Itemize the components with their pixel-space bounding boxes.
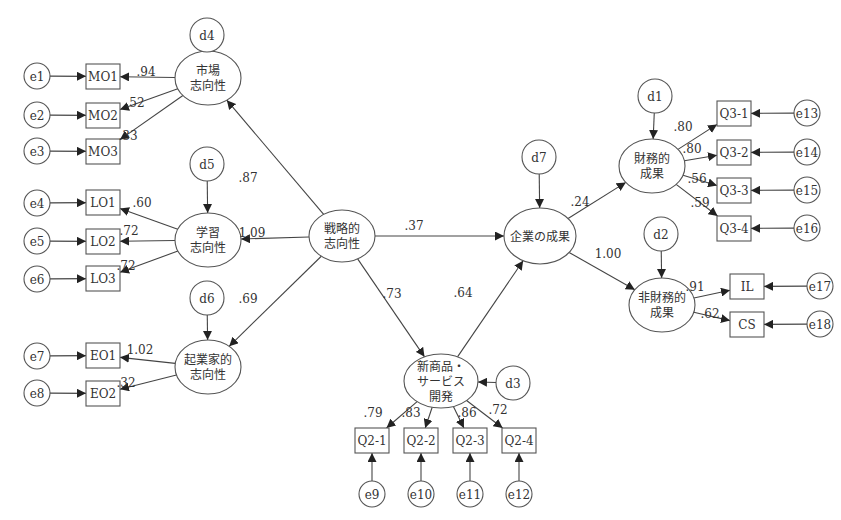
latent-label: 志向性 [190,240,226,255]
latent-label: 志向性 [190,78,226,93]
error-label: e7 [30,350,45,364]
error-label: e1 [30,70,45,84]
latent-variable-mo: 市場志向性 [175,51,241,105]
latent-label: 戦略的 [324,221,360,236]
latent-variable-perf: 企業の成果 [504,208,576,264]
path-arrow-npd-perf [457,261,523,357]
error-label: e3 [30,145,45,159]
error-label: e15 [796,184,818,198]
indicator-q3-1: Q3-1 [717,101,751,126]
error-term-e16: e16 [794,215,820,241]
indicator-label: Q3-3 [719,184,748,198]
latent-variable-so: 戦略的志向性 [309,210,375,262]
latent-label: 志向性 [190,367,226,382]
indicator-mo3: MO3 [86,139,120,164]
latent-ellipse [175,51,241,105]
error-term-e4: e4 [24,190,50,216]
latent-variable-lo: 学習志向性 [175,213,241,267]
error-term-e17: e17 [807,273,833,299]
indicator-lo2: LO2 [86,229,120,254]
indicator-q2-3: Q2-3 [453,428,487,453]
disturbance-d7: d7 [522,140,556,174]
error-label: e17 [809,280,831,294]
loading-coefficient: .79 [363,406,382,420]
path-arrow-so-mo [227,100,324,214]
indicator-label: LO1 [90,196,115,210]
latent-variable-eo: 起業家的志向性 [175,340,241,394]
latent-ellipse [175,340,241,394]
path-coefficient: .73 [382,287,401,301]
loading-coefficient: .56 [687,172,706,186]
disturbance-label: d3 [505,377,520,391]
error-term-e15: e15 [794,177,820,203]
latent-label: サービス [417,375,465,389]
indicator-label: MO1 [88,70,118,84]
error-term-e2: e2 [24,102,50,128]
latent-ellipse [175,213,241,267]
indicator-eo2: EO2 [86,381,120,406]
indicator-q3-4: Q3-4 [717,216,751,241]
latent-variable-fin: 財務的成果 [619,139,685,193]
disturbance-d3: d3 [496,366,530,400]
indicator-label: CS [738,318,755,332]
indicator-label: Q2-1 [357,434,386,448]
loading-coefficient: .83 [401,406,420,420]
loading-arrow-q3-2 [684,155,717,160]
loading-coefficient: .72 [119,224,138,238]
path-arrow-so-npd [358,259,425,357]
error-term-e10: e10 [408,481,434,507]
error-label: e14 [796,146,819,160]
indicator-label: Q2-4 [504,434,534,448]
path-coefficient: 1.00 [595,247,622,261]
indicator-label: EO2 [90,387,116,401]
loading-coefficient: .33 [118,129,137,143]
error-label: e4 [30,197,45,211]
latent-label: 開発 [429,390,453,404]
loading-coefficient: .86 [457,406,476,420]
error-label: e12 [508,488,530,502]
latent-label: 市場 [196,63,220,78]
error-term-e12: e12 [506,481,532,507]
indicator-q2-4: Q2-4 [502,428,536,453]
error-term-e13: e13 [794,100,820,126]
loading-arrow-q2-2 [425,407,432,428]
indicator-lo1: LO1 [86,190,120,215]
disturbance-d5: d5 [190,147,224,181]
latent-label: 起業家的 [184,352,232,367]
disturbance-d4: d4 [190,18,224,52]
indicator-mo2: MO2 [86,103,120,128]
indicator-label: MO2 [88,109,118,123]
error-term-e8: e8 [24,380,50,406]
indicator-label: Q3-2 [719,146,748,160]
path-coefficient: .69 [238,292,257,306]
loading-arrow-eo1 [120,357,175,363]
error-term-e7: e7 [24,343,50,369]
indicator-label: Q2-2 [406,434,435,448]
disturbance-label: d6 [199,292,214,306]
latent-ellipse [619,139,685,193]
latent-label: 志向性 [324,236,360,251]
error-term-e9: e9 [359,481,385,507]
indicator-label: IL [741,280,754,294]
indicator-mo1: MO1 [86,64,120,89]
disturbance-d1: d1 [638,79,672,113]
latent-label: 成果 [640,167,664,181]
loading-arrow-lo2 [120,240,175,241]
latent-label: 新商品・ [417,359,465,374]
indicator-eo1: EO1 [86,343,120,368]
disturbance-d6: d6 [190,281,224,315]
loading-coefficient: .72 [116,259,135,273]
error-label: e11 [459,488,481,502]
disturbance-arrow-d3 [478,382,496,383]
error-term-e11: e11 [457,481,483,507]
loading-coefficient: .72 [488,403,507,417]
loading-coefficient: .91 [685,280,704,294]
loading-coefficient: .32 [116,376,135,390]
sem-path-diagram: 市場志向性学習志向性起業家的志向性戦略的志向性企業の成果新商品・サービス開発財務… [0,0,841,520]
error-label: e9 [365,488,380,502]
error-term-e18: e18 [807,311,833,337]
disturbance-label: d5 [199,158,214,172]
path-coefficient: .37 [404,219,423,233]
error-term-e5: e5 [24,228,50,254]
error-label: e18 [809,318,831,332]
